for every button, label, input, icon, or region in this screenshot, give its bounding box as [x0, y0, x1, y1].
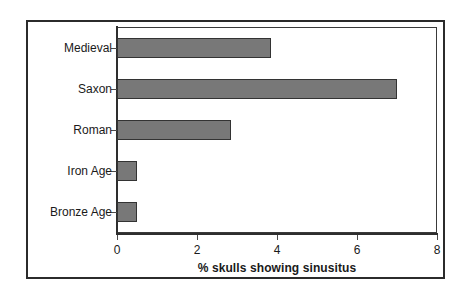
- x-axis-tick: [357, 235, 358, 240]
- x-axis-tick: [437, 235, 438, 240]
- bar: [117, 120, 231, 140]
- y-axis-tick-label: Iron Age: [8, 164, 112, 178]
- x-axis-tick-label: 0: [102, 243, 132, 257]
- x-axis-tick-label: 2: [182, 243, 212, 257]
- y-axis-tick-label: Roman: [8, 123, 112, 137]
- y-axis-labels: MedievalSaxonRomanIron AgeBronze Age: [6, 0, 112, 302]
- x-axis-tick: [277, 235, 278, 240]
- x-axis-tick-label: 8: [422, 243, 452, 257]
- bar: [117, 161, 137, 181]
- bar: [117, 38, 271, 58]
- x-axis-tick-label: 4: [262, 243, 292, 257]
- y-axis-tick-label: Medieval: [8, 41, 112, 55]
- x-axis-tick-label: 6: [342, 243, 372, 257]
- bar: [117, 202, 137, 222]
- x-axis-tick: [117, 235, 118, 240]
- bar: [117, 79, 397, 99]
- y-axis-tick-label: Saxon: [8, 82, 112, 96]
- x-axis-title: % skulls showing sinusitus: [117, 261, 437, 275]
- y-axis-tick-label: Bronze Age: [8, 205, 112, 219]
- x-axis-tick: [197, 235, 198, 240]
- figure: MedievalSaxonRomanIron AgeBronze Age 024…: [0, 0, 474, 302]
